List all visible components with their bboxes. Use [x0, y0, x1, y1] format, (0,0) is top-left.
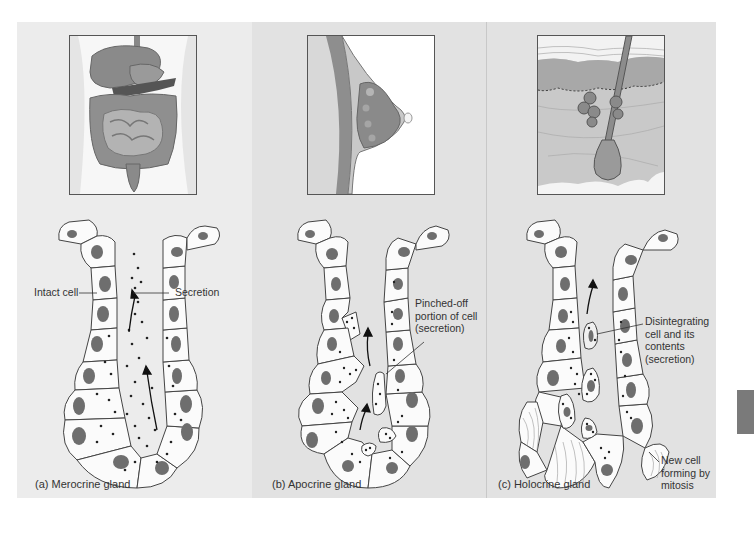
- secretion-arrows: [587, 280, 597, 314]
- caption-apocrine: (b) Apocrine gland: [272, 478, 361, 490]
- panel-merocrine: Intact cell Secretion (a) Merocrine glan…: [17, 22, 252, 498]
- label-line: Pinched-off: [415, 297, 477, 310]
- label-line: mitosis: [661, 479, 710, 492]
- label-line: contents: [645, 340, 709, 353]
- label-pinched-off-portion: Pinched-off portion of cell (secretion): [415, 297, 477, 335]
- label-line: cell and its: [645, 328, 709, 341]
- page-edge-tab: [737, 390, 754, 434]
- secretion-arrows: [360, 328, 372, 430]
- holocrine-gland-diagram: [487, 22, 716, 498]
- label-line: forming by: [661, 467, 710, 480]
- gland-cells: [59, 220, 220, 488]
- secretion-arrows: [129, 290, 157, 430]
- caption-merocrine: (a) Merocrine gland: [35, 478, 130, 490]
- merocrine-gland-diagram: [17, 22, 252, 498]
- panel-apocrine: Pinched-off portion of cell (secretion) …: [252, 22, 487, 498]
- gland-cells: [298, 220, 449, 488]
- label-disintegrating-cell: Disintegrating cell and its contents (se…: [645, 315, 709, 365]
- caption-holocrine: (c) Holocrine gland: [498, 478, 590, 490]
- label-secretion: Secretion: [175, 286, 219, 299]
- label-line: portion of cell: [415, 310, 477, 323]
- label-line: (secretion): [645, 353, 709, 366]
- label-line: Disintegrating: [645, 315, 709, 328]
- label-intact-cell: Intact cell: [34, 286, 78, 299]
- apocrine-gland-diagram: [252, 22, 486, 498]
- label-line: (secretion): [415, 322, 477, 335]
- panel-holocrine: Disintegrating cell and its contents (se…: [487, 22, 716, 498]
- label-new-cell-mitosis: New cell forming by mitosis: [661, 454, 710, 492]
- label-line: New cell: [661, 454, 710, 467]
